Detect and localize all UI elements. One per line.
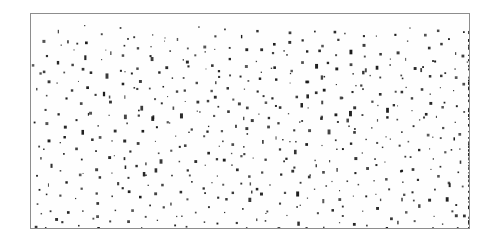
figure-root: [0, 0, 495, 245]
scatter-point-layer: [30, 13, 470, 229]
scatter-plot-panel: [30, 13, 470, 229]
